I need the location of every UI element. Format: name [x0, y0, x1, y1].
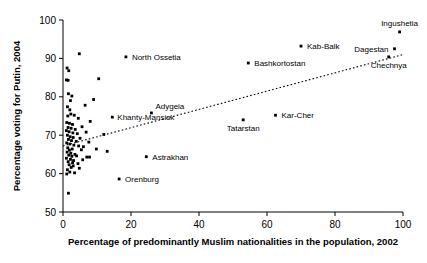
data-point — [71, 123, 74, 126]
data-point — [71, 148, 74, 151]
data-point — [68, 163, 71, 166]
data-point — [74, 128, 77, 131]
data-point — [92, 98, 95, 101]
point-label: Bashkortostan — [254, 59, 305, 68]
y-tick-label: 70 — [45, 130, 57, 141]
x-tick-label: 80 — [329, 219, 341, 230]
data-point — [71, 131, 74, 134]
data-point-labeled — [242, 118, 245, 121]
data-point-labeled — [387, 55, 390, 58]
point-label: Kab-Balk — [307, 42, 340, 51]
y-axis-title: Percentage voting for Putin, 2004 — [11, 40, 22, 191]
data-point — [70, 95, 73, 98]
data-point — [67, 126, 70, 129]
data-point — [69, 135, 72, 138]
y-tick-label: 80 — [45, 91, 57, 102]
point-label: Tatarstan — [227, 124, 260, 133]
data-point — [67, 138, 70, 141]
data-point-labeled — [247, 62, 250, 65]
y-tick-label: 50 — [45, 207, 57, 218]
data-point — [81, 158, 84, 161]
data-point — [78, 52, 81, 55]
data-point — [67, 154, 70, 157]
data-point — [77, 117, 80, 120]
point-label: Kar-Cher — [282, 111, 315, 120]
data-point — [79, 137, 82, 140]
data-point — [70, 155, 73, 158]
scatter-plot-figure: 5060708090100020406080100Percentage of p… — [0, 0, 427, 263]
data-point — [67, 69, 70, 72]
data-point — [77, 145, 80, 148]
point-label: Astrakhan — [152, 153, 188, 162]
data-point — [71, 161, 74, 164]
data-point — [84, 104, 87, 107]
data-point — [67, 79, 70, 82]
point-label: Ingushetia — [381, 19, 418, 28]
data-point — [78, 167, 81, 170]
data-point — [106, 150, 109, 153]
data-point — [67, 192, 70, 195]
data-point-labeled — [300, 45, 303, 48]
point-label: Chechnya — [371, 61, 408, 70]
x-tick-label: 40 — [193, 219, 205, 230]
x-axis-title: Percentage of predominantly Muslim natio… — [68, 236, 398, 247]
data-point — [65, 141, 68, 144]
data-point — [97, 77, 100, 80]
x-tick-label: 100 — [395, 219, 412, 230]
data-point — [70, 127, 73, 130]
data-point — [67, 92, 70, 95]
data-point-labeled — [145, 155, 148, 158]
data-point-labeled — [125, 55, 128, 58]
data-point-labeled — [111, 116, 114, 119]
data-point — [65, 129, 68, 132]
data-point — [85, 156, 88, 159]
data-point — [68, 143, 71, 146]
data-point — [77, 162, 80, 165]
data-point — [75, 140, 78, 143]
data-point — [72, 136, 75, 139]
data-point — [73, 171, 76, 174]
data-point — [69, 99, 72, 102]
data-point — [68, 171, 71, 174]
data-point — [68, 122, 71, 125]
point-label: Khanty-Mansisk — [117, 113, 175, 122]
plot-canvas: 5060708090100020406080100Percentage of p… — [0, 0, 427, 263]
data-point — [87, 141, 90, 144]
data-point — [65, 121, 68, 124]
point-label: North Ossetia — [132, 53, 181, 62]
data-point — [66, 134, 69, 137]
data-point — [88, 156, 91, 159]
data-point-labeled — [274, 114, 277, 117]
y-tick-label: 90 — [45, 53, 57, 64]
data-point — [68, 108, 71, 111]
data-point — [67, 160, 70, 163]
x-tick-label: 0 — [60, 219, 66, 230]
data-point-labeled — [118, 178, 121, 181]
x-tick-label: 60 — [261, 219, 273, 230]
data-point — [95, 148, 98, 151]
data-point — [66, 151, 69, 154]
data-point-labeled — [398, 31, 401, 34]
data-point — [89, 120, 92, 123]
data-point — [102, 133, 105, 136]
data-point — [65, 157, 68, 160]
point-label: Dagestan — [354, 45, 388, 54]
data-point — [69, 113, 72, 116]
data-point — [70, 166, 73, 169]
data-point — [75, 155, 78, 158]
data-point — [82, 145, 85, 148]
data-point — [68, 130, 71, 133]
point-label: Adygeia — [155, 102, 184, 111]
y-tick-label: 60 — [45, 168, 57, 179]
data-point — [66, 67, 69, 70]
data-point — [66, 105, 69, 108]
x-tick-label: 20 — [125, 219, 137, 230]
data-point — [65, 173, 68, 176]
data-point — [85, 131, 88, 134]
data-point — [72, 144, 75, 147]
data-point — [66, 115, 69, 118]
data-point-labeled — [393, 47, 396, 50]
point-label: Orenburg — [125, 175, 159, 184]
data-point — [80, 148, 83, 151]
data-point — [70, 139, 73, 142]
